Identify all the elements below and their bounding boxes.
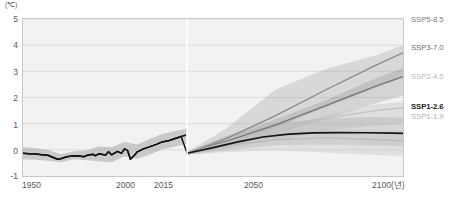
legend-item-ssp585: SSP5-8.5 — [411, 15, 444, 24]
legend: SSP5-8.5 SSP3-7.0 SSP2-4.5 SSP1-2.6 SSP1… — [0, 0, 459, 201]
legend-item-ssp370: SSP3-7.0 — [411, 43, 444, 52]
legend-item-ssp119: SSP1-1.9 — [411, 112, 444, 121]
legend-item-ssp245: SSP2-4.5 — [411, 72, 444, 81]
legend-item-ssp126: SSP1-2.6 — [411, 102, 444, 111]
climate-projection-chart: (℃) 5 4 3 2 1 0 -1 — [0, 0, 459, 201]
